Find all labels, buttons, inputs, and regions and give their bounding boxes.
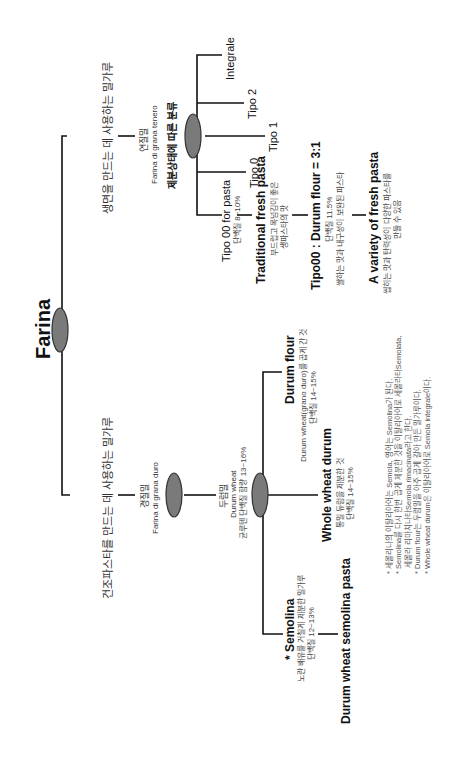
tenero-node-it: Farina di grana tenero [150, 105, 159, 184]
whole-wheat-line-1: 통밀 듀럼을 제분한 것 [336, 458, 345, 528]
whole-wheat-line-2: 단백질 14~15% [346, 467, 355, 520]
root-title: Farina [32, 299, 55, 359]
durum-flour-line-1: Durum wheat(grano duro)를 곱게 간 것 [299, 329, 308, 462]
tenero-node-ko: 연질밀 [139, 128, 149, 152]
footnotes: * 세몰리나의 이탈리아어는 Semola, 영어는 Semolina가 된다.… [385, 335, 432, 574]
duro-node [166, 473, 182, 517]
variety-fresh-pasta: A variety of fresh pasta [368, 152, 382, 284]
fresh-branch-label: 생면을 만드는 데 사용하는 밀가루 [102, 62, 115, 214]
tipo00-durum-ratio: Tipo00 : Durum flour = 3:1 [310, 141, 324, 290]
footnote-1: * 세몰리나의 이탈리아어는 Semola, 영어는 Semolina가 된다. [385, 335, 394, 574]
durum-wheat-en: Durum wheat [229, 470, 238, 518]
flour-classification-diagram: Farina 생면을 만드는 데 사용하는 밀가루 연질밀 Farina di … [0, 0, 452, 764]
grade-tipo-00: Tipo 00 for pasta [220, 180, 233, 262]
semolina: * Semolina [284, 599, 298, 660]
grade-tipo-2: Tipo 2 [246, 89, 259, 119]
footnote-4: * Whole wheat durum은 이탈리아어로 Semola integ… [423, 335, 432, 574]
tenero-node [185, 114, 201, 158]
grade-integrale: Integrale [224, 37, 237, 80]
variety-line-2: 만들 수 있음 [393, 200, 402, 239]
durum-wheat-sub: 균루텐 단백질 함량 13~16% [239, 447, 248, 539]
dry-branch-label: 건조파스타를 만드는 데 사용하는 밀가루 [102, 417, 115, 599]
footnote-3: * Durum flour는 두럼밀을 아주 곱게 갈아 만든 밀가루이다. [413, 335, 422, 574]
semolina-line-1: 노란 배유를 거칠게 제분한 밀가루 [297, 575, 306, 682]
durum-wheat-ko: 두럼밀 [219, 484, 229, 508]
tenero-classification: 제분상태에 따른 분류 [167, 102, 179, 189]
durum-semolina-pasta: Durum wheat semolina pasta [340, 558, 354, 724]
duro-node-ko: 경질밀 [140, 484, 150, 508]
ratio-line-2: 쌀하는 맛과 내구성이 보완된 파스타 [336, 172, 345, 286]
traditional-line-1: 부드럽고 목넘김이 좋은 [270, 182, 279, 256]
durum-flour: Durum flour [284, 335, 298, 404]
whole-wheat-durum: Whole wheat durum [321, 428, 335, 542]
grade-tipo-1: Tipo 1 [267, 122, 280, 152]
traditional-fresh-pasta: Traditional fresh pasta [255, 156, 269, 284]
semolina-line-2: 단백질 12~13% [307, 607, 316, 660]
variety-line-1: 씹히는 맛과 탄력성이 다양한 파스타를 [383, 173, 392, 294]
grade-tipo-00-sub: 단백질 8~10% [233, 196, 242, 244]
traditional-line-2: 생파스타의 맛 [280, 205, 289, 249]
durum-wheat-node [252, 473, 268, 517]
durum-flour-line-2: 단백질 14~15% [309, 371, 318, 424]
ratio-line-1: 단백질 11.5% [325, 197, 334, 242]
footnote-2: * Semolina를 다시 한번 곱게 제분한 것을 이탈리아어로 세몰라타S… [394, 335, 403, 574]
duro-node-it: Farina di grana duro [151, 462, 160, 534]
footnote-2b: 세몰라 리마치나타Semola rimacinata라고 한다. [404, 335, 413, 574]
